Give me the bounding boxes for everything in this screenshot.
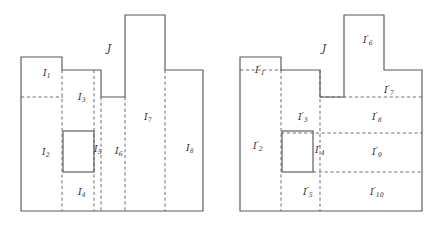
right-figure-group: J I′1 I′2 I′3 I′4 I′5 I′6 I′7	[240, 15, 422, 211]
left-figure-group: J I1 I2 I3 I4 I5 I6 I7	[21, 15, 203, 211]
right-outline-fill	[240, 15, 422, 211]
figure-container: J I1 I2 I3 I4 I5 I6 I7	[0, 0, 441, 231]
partition-diagram: J I1 I2 I3 I4 I5 I6 I7	[0, 0, 441, 231]
right-outer-label-J: J	[320, 42, 327, 54]
left-outer-label-J: J	[105, 42, 112, 54]
left-outline-fill	[21, 15, 203, 211]
